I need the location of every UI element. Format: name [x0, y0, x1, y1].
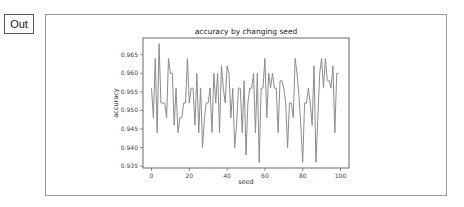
- y-tick-label: 0.940: [121, 144, 138, 151]
- x-tick-label: 0: [150, 172, 154, 179]
- y-tick-label: 0.950: [121, 106, 138, 113]
- y-tick-label: 0.935: [121, 162, 138, 169]
- y-tick-label: 0.960: [121, 69, 138, 76]
- x-tick-label: 100: [335, 172, 347, 179]
- accuracy-line-chart: accuracy by changing seed 0.9350.9400.94…: [0, 0, 464, 207]
- chart-title: accuracy by changing seed: [195, 27, 298, 36]
- x-tick-label: 80: [299, 172, 307, 179]
- x-axis-label: seed: [238, 178, 254, 186]
- y-tick-label: 0.965: [121, 51, 138, 58]
- x-tick-label: 40: [223, 172, 231, 179]
- x-tick-label: 60: [261, 172, 269, 179]
- y-axis-ticks: 0.9350.9400.9450.9500.9550.9600.965: [121, 51, 143, 169]
- y-axis-label: accuracy: [112, 88, 120, 117]
- x-tick-label: 20: [185, 172, 193, 179]
- y-tick-label: 0.945: [121, 125, 138, 132]
- y-tick-label: 0.955: [121, 88, 138, 95]
